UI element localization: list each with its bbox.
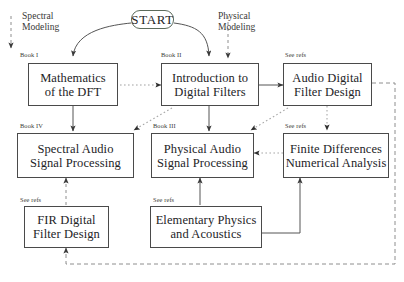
- node-fir-line2: Filter Design: [33, 227, 100, 241]
- start-label: START: [131, 12, 173, 28]
- tag-book-ii: Book II: [161, 51, 181, 58]
- tag-see-refs-audio-filter: See refs: [285, 51, 306, 58]
- node-physical-audio-signal-processing[interactable]: Physical Audio Signal Processing: [151, 133, 254, 178]
- node-audio-digital-filter-design[interactable]: Audio Digital Filter Design: [283, 63, 372, 106]
- lane-label-physical-modeling: Physical Modeling: [218, 10, 255, 33]
- tag-see-refs-elem-physics: See refs: [153, 196, 174, 203]
- node-physical-line1: Physical Audio: [164, 142, 241, 156]
- node-intro-line1: Introduction to: [172, 71, 248, 85]
- node-finite-line2: Numerical Analysis: [286, 156, 387, 170]
- node-spectral-audio-signal-processing[interactable]: Spectral Audio Signal Processing: [17, 133, 134, 178]
- lane-physical-line1: Physical: [218, 10, 251, 21]
- node-audiofilter-line1: Audio Digital: [292, 71, 362, 85]
- tag-book-iii: Book III: [153, 122, 176, 129]
- tag-see-refs-fir: See refs: [20, 196, 41, 203]
- edge-audiofilter-to-physical-diag: [251, 108, 288, 130]
- node-audiofilter-line2: Filter Design: [294, 85, 361, 99]
- node-math-line1: Mathematics: [40, 71, 106, 85]
- node-introduction-to-digital-filters[interactable]: Introduction to Digital Filters: [161, 63, 259, 106]
- tag-see-refs-finite-diff: See refs: [285, 122, 306, 129]
- node-mathematics-of-the-dft[interactable]: Mathematics of the DFT: [28, 63, 118, 106]
- node-physics-line2: and Acoustics: [170, 227, 241, 241]
- node-finite-line1: Finite Differences: [290, 142, 382, 156]
- node-math-line2: of the DFT: [45, 85, 102, 99]
- lane-spectral-line1: Spectral: [22, 10, 53, 21]
- node-spectral-line1: Spectral Audio: [37, 142, 113, 156]
- node-finite-differences-numerical-analysis[interactable]: Finite Differences Numerical Analysis: [283, 133, 389, 178]
- tag-book-iv: Book IV: [20, 122, 43, 129]
- lane-label-spectral-modeling: Spectral Modeling: [22, 10, 59, 33]
- diagram-canvas: Spectral Modeling Physical Modeling STAR…: [0, 0, 404, 282]
- edge-physics-to-finite: [262, 178, 300, 233]
- node-elementary-physics-and-acoustics[interactable]: Elementary Physics and Acoustics: [150, 206, 262, 248]
- node-physical-line2: Signal Processing: [157, 156, 248, 170]
- node-intro-line2: Digital Filters: [174, 85, 245, 99]
- edge-start-to-math: [73, 23, 131, 56]
- node-spectral-line2: Signal Processing: [30, 156, 121, 170]
- tag-book-i: Book I: [20, 51, 38, 58]
- start-node[interactable]: START: [131, 10, 174, 29]
- lane-physical-line2: Modeling: [218, 21, 255, 32]
- node-fir-line1: FIR Digital: [37, 213, 95, 227]
- node-fir-digital-filter-design[interactable]: FIR Digital Filter Design: [24, 206, 109, 248]
- lane-spectral-line2: Modeling: [22, 21, 59, 32]
- node-physics-line1: Elementary Physics: [156, 213, 257, 227]
